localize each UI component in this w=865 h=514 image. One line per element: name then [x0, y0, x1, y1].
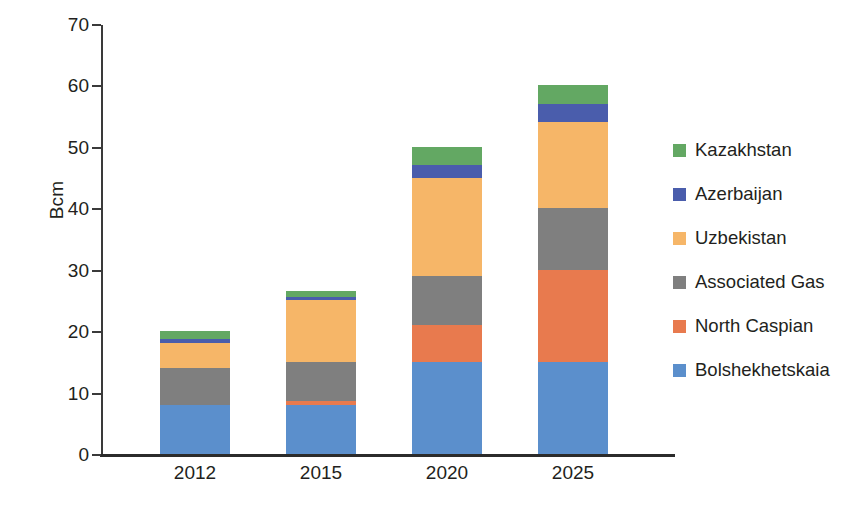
bar-segment-associated-gas — [160, 368, 230, 405]
plot-area — [101, 25, 661, 455]
bar-stack — [160, 331, 230, 454]
bar-group-2012 — [160, 331, 230, 454]
bar-segment-uzbekistan — [412, 178, 482, 276]
legend-item-label: Azerbaijan — [695, 185, 782, 204]
x-axis-line — [100, 454, 675, 457]
x-axis-tick-label: 2015 — [261, 462, 381, 484]
bar-segment-kazakhstan — [538, 85, 608, 103]
legend-swatch-icon — [673, 276, 686, 289]
bar-group-2025 — [538, 85, 608, 454]
x-axis-tick-label: 2025 — [513, 462, 633, 484]
bar-stack — [286, 291, 356, 454]
bar-segment-bolshekhetskaia — [286, 405, 356, 454]
legend-item-label: Bolshekhetskaia — [695, 361, 830, 380]
bar-group-2020 — [412, 147, 482, 454]
legend-item-label: North Caspian — [695, 317, 813, 336]
legend-item-north-caspian[interactable]: North Caspian — [673, 304, 863, 348]
y-axis-tick — [92, 270, 101, 272]
bar-segment-uzbekistan — [538, 122, 608, 208]
y-axis-line — [101, 25, 103, 455]
y-axis-tick — [92, 454, 101, 456]
bar-segment-bolshekhetskaia — [412, 362, 482, 454]
y-axis-tick — [92, 85, 101, 87]
bar-segment-bolshekhetskaia — [160, 405, 230, 454]
y-axis-tick-label: 0 — [78, 444, 89, 466]
legend-swatch-icon — [673, 320, 686, 333]
legend-swatch-icon — [673, 364, 686, 377]
bar-segment-uzbekistan — [286, 300, 356, 361]
bar-segment-bolshekhetskaia — [538, 362, 608, 454]
bar-segment-uzbekistan — [160, 343, 230, 368]
legend-item-associated-gas[interactable]: Associated Gas — [673, 260, 863, 304]
legend-item-kazakhstan[interactable]: Kazakhstan — [673, 128, 863, 172]
y-axis-tick — [92, 393, 101, 395]
bar-segment-north-caspian — [538, 270, 608, 362]
legend-item-azerbaijan[interactable]: Azerbaijan — [673, 172, 863, 216]
legend-item-uzbekistan[interactable]: Uzbekistan — [673, 216, 863, 260]
y-axis-tick-label: 10 — [68, 383, 89, 405]
y-axis-tick-label: 60 — [68, 75, 89, 97]
bar-segment-azerbaijan — [412, 165, 482, 177]
y-axis-tick-label: 50 — [68, 137, 89, 159]
y-axis-tick-label: 40 — [68, 198, 89, 220]
y-axis-tick-label: 20 — [68, 321, 89, 343]
legend-item-label: Uzbekistan — [695, 229, 787, 248]
y-axis-tick — [92, 331, 101, 333]
y-axis-tick-labels: 010203040506070 — [0, 0, 101, 514]
bar-segment-azerbaijan — [538, 104, 608, 122]
chart-legend: KazakhstanAzerbaijanUzbekistanAssociated… — [673, 128, 863, 392]
bar-stack — [538, 85, 608, 454]
stacked-bar-chart: Bcm 010203040506070 2012201520202025 Kaz… — [0, 0, 865, 514]
legend-swatch-icon — [673, 232, 686, 245]
legend-item-bolshekhetskaia[interactable]: Bolshekhetskaia — [673, 348, 863, 392]
y-axis-tick — [92, 24, 101, 26]
y-axis-tick — [92, 147, 101, 149]
bar-segment-kazakhstan — [160, 331, 230, 338]
x-axis-tick-label: 2020 — [387, 462, 507, 484]
y-axis-tick — [92, 208, 101, 210]
bar-segment-north-caspian — [412, 325, 482, 362]
x-axis-tick-label: 2012 — [135, 462, 255, 484]
legend-item-label: Kazakhstan — [695, 141, 792, 160]
y-axis-tick-label: 70 — [68, 14, 89, 36]
y-axis-tick-label: 30 — [68, 260, 89, 282]
bar-segment-kazakhstan — [412, 147, 482, 165]
bar-segment-associated-gas — [412, 276, 482, 325]
bar-segment-associated-gas — [286, 362, 356, 401]
legend-swatch-icon — [673, 188, 686, 201]
bar-group-2015 — [286, 291, 356, 454]
bar-segment-associated-gas — [538, 208, 608, 269]
legend-item-label: Associated Gas — [695, 273, 825, 292]
bar-stack — [412, 147, 482, 454]
legend-swatch-icon — [673, 144, 686, 157]
